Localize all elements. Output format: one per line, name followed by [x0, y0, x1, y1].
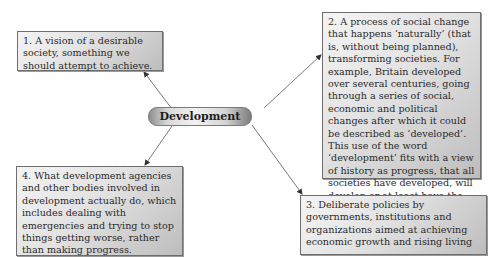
arrow-to-node-2: [264, 55, 321, 108]
node-3-text: 3. Deliberate policies by governments, i…: [306, 199, 472, 247]
node-vision-of-desirable-society: 1. A vision of a desirable society, some…: [17, 31, 163, 71]
node-2-text: 2. A process of social change that happe…: [328, 16, 474, 213]
node-4-text: 4. What development agencies and other b…: [22, 170, 176, 255]
node-process-of-social-change: 2. A process of social change that happe…: [322, 12, 481, 179]
center-node-label: Development: [160, 110, 241, 123]
node-deliberate-policies: 3. Deliberate policies by governments, i…: [300, 195, 487, 255]
arrow-to-node-4: [145, 126, 172, 165]
arrow-to-node-1: [144, 72, 172, 109]
node-1-text: 1. A vision of a desirable society, some…: [23, 35, 152, 71]
arrow-to-node-3: [252, 125, 302, 194]
center-node-development: Development: [148, 107, 252, 126]
node-what-agencies-do: 4. What development agencies and other b…: [16, 166, 183, 256]
